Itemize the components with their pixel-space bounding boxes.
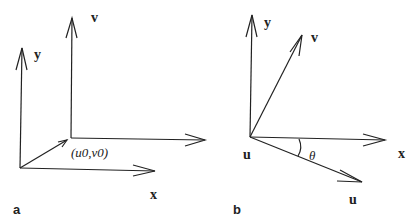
y-label-b: y: [264, 15, 271, 30]
u-label-b: u: [349, 192, 357, 207]
y-label-a: y: [34, 47, 41, 62]
u-arrowhead-b: [337, 170, 362, 182]
x-axis-b: [250, 137, 385, 140]
u-axis-a: [71, 138, 205, 140]
panel-label-a: a: [13, 202, 21, 217]
v-label-b: v: [311, 30, 318, 45]
x-axis-a: [20, 168, 155, 171]
panel-a: [16, 18, 205, 176]
v-axis-b: [250, 35, 302, 137]
coordinate-diagram: y v x (u0,v0) a y v x u u θ b: [0, 0, 419, 224]
offset-arrowhead-a: [58, 140, 67, 147]
y-axis-a: [20, 48, 22, 168]
angle-arc: [298, 139, 301, 156]
origin-label-b: u: [243, 147, 251, 162]
v-axis-a: [71, 18, 72, 138]
v-label-a: v: [91, 10, 98, 25]
u-axis-b: [250, 137, 362, 182]
x-label-a: x: [150, 187, 157, 202]
x-label-b: x: [398, 146, 405, 161]
theta-label: θ: [309, 148, 316, 163]
offset-vector-a: [20, 140, 67, 168]
origin-label-a: (u0,v0): [71, 145, 108, 160]
panel-label-b: b: [233, 202, 241, 217]
y-axis-b: [250, 15, 252, 137]
